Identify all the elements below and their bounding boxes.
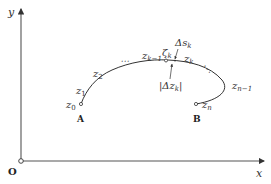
arc-length-pointer — [175, 49, 178, 59]
label-zeta-k: ζk — [162, 47, 172, 60]
label-zn-minus-1: zn−1 — [231, 80, 252, 93]
start-point — [79, 102, 82, 105]
label-B: B — [193, 114, 201, 124]
label-zn: zn — [201, 99, 212, 112]
origin-label: O — [8, 166, 17, 177]
zk-point — [174, 60, 176, 62]
end-point — [194, 102, 197, 105]
label-arc-length: Δsk — [174, 37, 192, 50]
label-z1: z1 — [75, 85, 86, 98]
chord-length-pointer — [170, 64, 172, 79]
label-zk: zk — [183, 53, 194, 66]
label-chord-length: |Δzk| — [159, 80, 182, 93]
ellipsis-left: ⋯ — [120, 56, 129, 66]
x-axis-label: x — [256, 167, 263, 180]
origin-point — [19, 159, 24, 164]
y-axis-label: y — [7, 6, 15, 19]
contour-diagram: y x O z0 A z1 z2 ⋯ zk−1 ζk Δsk zk ⋱ |Δzk… — [0, 0, 271, 184]
ellipsis-right: ⋱ — [202, 64, 211, 74]
label-z2: z2 — [92, 68, 103, 81]
label-A: A — [76, 114, 85, 124]
label-z0: z0 — [65, 99, 76, 112]
